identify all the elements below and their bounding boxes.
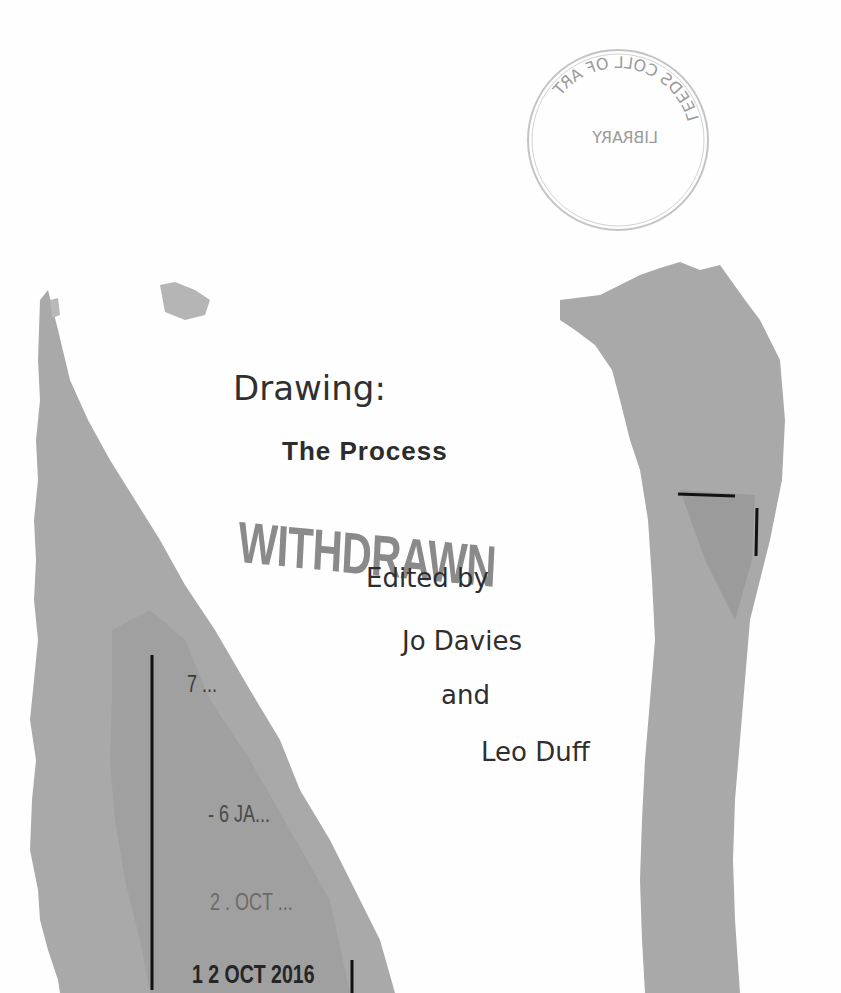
scanned-page: LIBRARY LEEDS COLL OF ART Drawing: The P… (0, 0, 841, 993)
due-date-stamp: 2 . OCT ... (210, 888, 293, 916)
editor-prefix: Edited by (366, 563, 489, 593)
editor-name-1: Jo Davies (402, 626, 522, 656)
book-subtitle: The Process (282, 436, 448, 467)
editor-conjunction: and (441, 680, 490, 710)
due-date-stamp: 7 ... (187, 670, 217, 698)
book-title: Drawing: (233, 368, 386, 408)
due-date-stamp: - 6 JA... (208, 800, 270, 828)
due-date-stamp: 1 2 OCT 2016 (192, 959, 314, 990)
editor-name-2: Leo Duff (481, 737, 590, 767)
library-seal-stamp: LIBRARY LEEDS COLL OF ART (518, 40, 718, 240)
seal-center-text: LIBRARY (592, 128, 658, 147)
